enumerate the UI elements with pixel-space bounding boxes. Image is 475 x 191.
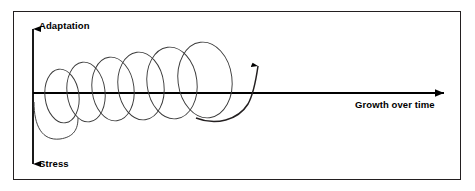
spiral-loops (34, 39, 236, 139)
growth-over-time-axis-label: Growth over time (355, 100, 435, 110)
adaptation-axis-label: Adaptation (39, 21, 90, 31)
stress-axis-label: Stress (39, 159, 69, 169)
diagram-canvas: Adaptation Stress Growth over time (0, 0, 475, 191)
